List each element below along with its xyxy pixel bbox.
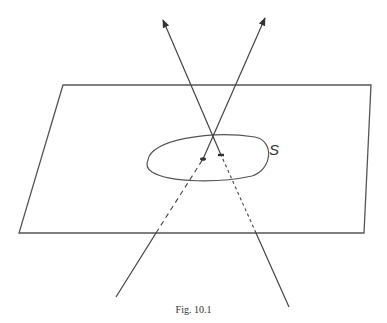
figure-caption: Fig. 10.1 xyxy=(0,304,387,315)
plane xyxy=(19,85,371,233)
line-2-above-plane-arrow xyxy=(163,20,221,155)
line-2-below-plane xyxy=(256,233,289,307)
region-s-outline xyxy=(147,135,269,181)
region-label-s: S xyxy=(269,141,279,158)
figure-diagram xyxy=(0,0,387,323)
line-1-hidden-segment xyxy=(156,159,203,233)
line-2-hidden-segment xyxy=(221,155,256,233)
line-1-below-plane xyxy=(116,233,156,297)
pierce-point-2 xyxy=(218,154,224,156)
line-1-above-plane-arrow xyxy=(203,18,265,159)
pierce-point-1 xyxy=(200,157,206,161)
